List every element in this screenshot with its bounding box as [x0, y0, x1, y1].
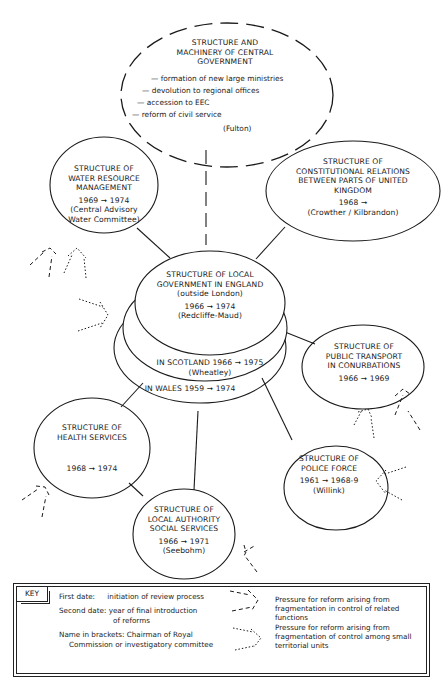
node-title-line: STRUCTURE OF: [312, 342, 416, 352]
pressure-arrow-dotted: [354, 409, 374, 438]
node-title-line: STRUCTURE OF: [134, 505, 234, 515]
key-legend-dotted-text: Pressure for reform arising from fragmen…: [275, 623, 415, 651]
key-second-date-text-cont: of reforms: [113, 616, 150, 626]
node-title-line: KINGDOM: [268, 186, 438, 196]
node-chairman: (Crowther / Kilbrandon): [268, 208, 438, 218]
key-first-date: First date: initiation of review process: [59, 592, 204, 602]
connector-constitutional-local: [256, 227, 285, 259]
node-title-line: LOCAL AUTHORITY: [134, 515, 234, 525]
central-government-label: STRUCTURE AND MACHINERY OF CENTRAL GOVER…: [150, 38, 300, 67]
water-resource-label: STRUCTURE OF WATER RESOURCE MANAGEMENT 1…: [56, 164, 152, 225]
node-title-line: SOCIAL SERVICES: [134, 524, 234, 534]
pressure-arrow-dotted: [64, 248, 86, 278]
constitutional-label: STRUCTURE OF CONSTITUTIONAL RELATIONS BE…: [268, 157, 438, 218]
local-government-label: STRUCTURE OF LOCAL GOVERNMENT IN ENGLAND…: [140, 270, 280, 321]
key-legend-dashed-text: Pressure for reform arising from fragmen…: [275, 595, 415, 623]
node-title-line: MANAGEMENT: [56, 183, 152, 193]
node-title-line: GOVERNMENT: [150, 57, 300, 67]
node-chairman: Water Committee): [56, 215, 152, 225]
node-title-line: PUBLIC TRANSPORT: [312, 352, 416, 362]
scotland-dates: IN SCOTLAND 1966 ➞ 1975: [145, 358, 275, 368]
key-second-date-text: year of final introduction: [109, 606, 198, 615]
pressure-arrow-dotted: [376, 467, 406, 500]
node-title-line: STRUCTURE OF: [44, 423, 140, 433]
node-title-line: STRUCTURE OF LOCAL: [140, 270, 280, 280]
pressure-arrow-dotted: [78, 299, 108, 331]
wales-dates: IN WALES 1959 ➞ 1974: [135, 384, 245, 394]
police-force-label: STRUCTURE OF POLICE FORCE 1961 ➞ 1968-9 …: [284, 454, 374, 495]
public-transport-label: STRUCTURE OF PUBLIC TRANSPORT IN CONURBA…: [312, 342, 416, 383]
key-box: KEY First date: initiation of review pro…: [16, 586, 427, 674]
node-title-line: STRUCTURE OF: [56, 164, 152, 174]
node-title-line: WATER RESOURCE: [56, 174, 152, 184]
node-title-line: GOVERNMENT IN ENGLAND: [140, 280, 280, 290]
node-title-line: POLICE FORCE: [284, 464, 374, 474]
node-subtitle: (outside London): [140, 289, 280, 299]
bullet-item: — formation of new large ministries: [132, 73, 283, 85]
key-first-date-label: First date:: [59, 592, 95, 601]
node-title-line: STRUCTURE OF: [284, 454, 374, 464]
node-dates: 1966 ➞ 1969: [312, 374, 416, 384]
node-dates: 1969 ➞ 1974: [56, 196, 152, 206]
node-title-line: IN CONURBATIONS: [312, 361, 416, 371]
node-title-line: BETWEEN PARTS OF UNITED: [268, 176, 438, 186]
bullet-item: — devolution to regional offices: [132, 85, 283, 97]
node-chairman: (Central Advisory: [56, 205, 152, 215]
key-first-date-text: initiation of review process: [107, 592, 204, 601]
scotland-label: IN SCOTLAND 1966 ➞ 1975 (Wheatley): [145, 358, 275, 377]
node-title-line: STRUCTURE AND: [150, 38, 300, 48]
node-title-line: STRUCTURE OF: [268, 157, 438, 167]
pressure-arrow-dashed: [244, 545, 257, 572]
node-chairman: (Redcliffe-Maud): [140, 311, 280, 321]
key-second-date-label: Second date:: [59, 606, 106, 615]
key-name-text: Name in brackets: Chairman of Royal: [59, 630, 193, 640]
central-government-bullets: — formation of new large ministries — de…: [132, 73, 283, 121]
bullet-item: — accession to EEC: [132, 97, 283, 109]
key-second-date: Second date: year of final introduction: [59, 606, 197, 616]
node-dates: 1968 ➞ 1974: [44, 464, 140, 474]
node-dates: 1968 ➞: [268, 198, 438, 208]
central-government-chairman: (Fulton): [223, 123, 251, 135]
pressure-arrow-dashed: [30, 248, 56, 277]
node-title-line: HEALTH SERVICES: [44, 433, 140, 443]
connector-local-police: [262, 378, 292, 440]
connector-water-local: [137, 228, 170, 258]
node-title-line: MACHINERY OF CENTRAL: [150, 48, 300, 58]
node-title-line: CONSTITUTIONAL RELATIONS: [268, 167, 438, 177]
connector-local-social: [194, 411, 198, 490]
scotland-chairman: (Wheatley): [145, 368, 275, 378]
node-chairman: (Seebohm): [134, 546, 234, 556]
wales-label: IN WALES 1959 ➞ 1974: [135, 384, 245, 394]
node-dates: 1961 ➞ 1968-9: [284, 476, 374, 486]
pressure-arrow-dashed: [22, 486, 50, 517]
key-label: KEY: [17, 587, 48, 602]
key-name-text-cont: Commission or investigatory committee: [69, 640, 213, 650]
node-dates: 1966 ➞ 1974: [140, 302, 280, 312]
social-services-label: STRUCTURE OF LOCAL AUTHORITY SOCIAL SERV…: [134, 505, 234, 556]
node-dates: 1966 ➞ 1971: [134, 537, 234, 547]
health-services-label: STRUCTURE OF HEALTH SERVICES 1968 ➞ 1974: [44, 423, 140, 474]
node-chairman: (Willink): [284, 486, 374, 496]
bullet-item: — reform of civil service: [132, 109, 283, 121]
